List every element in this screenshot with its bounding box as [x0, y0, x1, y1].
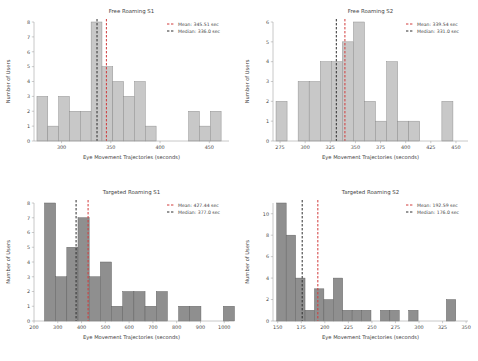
x-tick-label: 450 — [205, 144, 214, 150]
x-tick-label: 450 — [451, 144, 460, 150]
y-tick-label: 7 — [27, 215, 30, 221]
chart-free-roaming-s1: Free Roaming S1300350400450012345678Eye … — [0, 0, 239, 181]
histogram-bar — [78, 218, 89, 321]
x-axis-label: Eye Movement Trajectories (seconds) — [322, 334, 419, 341]
y-tick-label: 2 — [266, 296, 269, 302]
panel-free-roaming-s1: Free Roaming S1300350400450012345678Eye … — [0, 0, 239, 181]
x-tick-label: 300 — [300, 144, 309, 150]
histogram-bar — [189, 111, 200, 141]
histogram-bar — [223, 306, 234, 321]
x-tick-label: 175 — [297, 324, 306, 330]
x-tick-label: 275 — [275, 144, 284, 150]
histogram-bar — [44, 203, 55, 321]
x-tick-label: 300 — [414, 324, 423, 330]
histogram-bar — [442, 101, 453, 141]
histogram-bar — [134, 292, 145, 322]
histogram-bar — [380, 310, 389, 321]
histogram-bar — [199, 126, 210, 141]
histogram-bar — [69, 111, 80, 141]
histogram-bar — [113, 82, 124, 142]
x-tick-label: 1000 — [218, 324, 230, 330]
histogram-bar — [59, 96, 70, 141]
x-tick-label: 200 — [29, 324, 38, 330]
y-tick-label: 0 — [27, 138, 30, 144]
panel-title: Targeted Roaming S2 — [341, 189, 399, 196]
y-axis-label: Number of Users — [5, 59, 11, 103]
x-tick-label: 350 — [351, 144, 360, 150]
x-tick-label: 325 — [326, 144, 335, 150]
histogram-bar — [343, 310, 352, 321]
histogram-bar — [277, 203, 286, 321]
legend-median-label: Median: 331.0 sec — [417, 29, 460, 34]
y-tick-label: 2 — [27, 108, 30, 114]
y-tick-label: 3 — [266, 78, 269, 84]
histogram-bars — [277, 203, 456, 321]
y-tick-label: 0 — [266, 138, 269, 144]
y-tick-label: 1 — [27, 303, 30, 309]
x-tick-label: 400 — [155, 144, 164, 150]
y-tick-label: 0 — [27, 318, 30, 324]
histogram-bar — [324, 300, 333, 321]
y-tick-label: 3 — [27, 93, 30, 99]
x-tick-label: 250 — [367, 324, 376, 330]
histogram-bar — [48, 126, 59, 141]
y-tick-label: 6 — [266, 19, 269, 25]
histogram-bars — [276, 22, 453, 141]
x-tick-label: 500 — [101, 324, 110, 330]
histogram-bar — [314, 289, 323, 321]
panel-free-roaming-s2: Free Roaming S22753003253503754004254500… — [239, 0, 478, 181]
y-axis-label: Number of Users — [244, 240, 250, 284]
y-axis-label: Number of Users — [5, 240, 11, 284]
histogram-bar — [112, 306, 123, 321]
histogram-bar — [331, 62, 342, 141]
histogram-bar — [145, 306, 156, 321]
y-tick-label: 8 — [27, 200, 30, 206]
y-tick-label: 1 — [266, 118, 269, 124]
histogram-bar — [352, 310, 361, 321]
panel-title: Targeted Roaming S1 — [102, 189, 160, 196]
x-tick-label: 800 — [172, 324, 181, 330]
y-tick-label: 4 — [27, 78, 30, 84]
x-tick-label: 275 — [391, 324, 400, 330]
y-tick-label: 5 — [27, 244, 30, 250]
histogram-bar — [398, 121, 409, 141]
histogram-bar — [387, 62, 398, 141]
histogram-bars — [44, 203, 234, 321]
y-tick-label: 5 — [266, 39, 269, 45]
x-tick-label: 200 — [320, 324, 329, 330]
legend-mean-label: Mean: 345.51 sec — [178, 22, 219, 27]
histogram-bar — [296, 278, 305, 321]
legend: Mean: 192.59 secMedian: 176.0 sec — [406, 203, 460, 215]
x-tick-label: 375 — [376, 144, 385, 150]
histogram-bar — [276, 101, 287, 141]
legend: Mean: 345.51 secMedian: 336.0 sec — [167, 22, 221, 34]
y-tick-label: 4 — [266, 275, 269, 281]
panel-targeted-roaming-s2: Targeted Roaming S2150175200225250275300… — [239, 181, 478, 361]
histogram-bar — [100, 262, 111, 321]
legend: Mean: 339.54 secMedian: 331.0 sec — [406, 22, 460, 34]
histogram-bar — [89, 277, 100, 321]
histogram-bar — [145, 126, 156, 141]
histogram-bar — [123, 292, 134, 322]
x-tick-label: 700 — [148, 324, 157, 330]
histogram-bar — [353, 22, 364, 141]
y-tick-label: 7 — [27, 34, 30, 40]
legend-mean-label: Mean: 192.59 sec — [417, 203, 458, 208]
x-tick-label: 350 — [106, 144, 115, 150]
x-tick-label: 325 — [438, 324, 447, 330]
x-tick-label: 225 — [344, 324, 353, 330]
histogram-bar — [37, 96, 48, 141]
y-tick-label: 6 — [27, 229, 30, 235]
panel-targeted-roaming-s1: Targeted Roaming S1200300400500600700800… — [0, 181, 239, 361]
legend: Mean: 427.44 secMedian: 377.0 sec — [167, 203, 221, 215]
histogram-bar — [364, 101, 375, 141]
legend-mean-label: Mean: 427.44 sec — [178, 203, 219, 208]
histogram-bar — [134, 82, 145, 142]
y-tick-label: 4 — [266, 58, 269, 64]
histogram-bar — [190, 306, 201, 321]
histogram-bar — [409, 121, 420, 141]
histogram-bar — [102, 67, 113, 141]
x-tick-label: 350 — [461, 324, 470, 330]
histogram-bar — [409, 310, 418, 321]
y-axis-label: Number of Users — [244, 59, 250, 103]
